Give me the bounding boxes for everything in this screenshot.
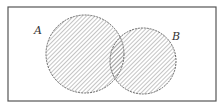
set-a-label: A: [33, 24, 42, 37]
venn-diagram: A B: [0, 0, 224, 106]
set-b-label: B: [171, 30, 180, 43]
set-b-circle: [110, 28, 176, 94]
